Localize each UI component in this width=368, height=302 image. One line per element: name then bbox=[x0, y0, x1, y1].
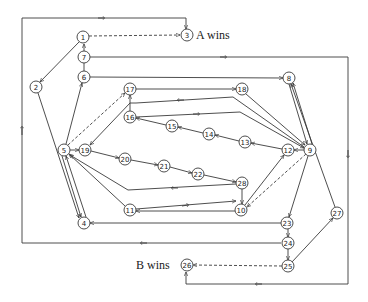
edge-28-5 bbox=[70, 155, 236, 190]
node-28: 28 bbox=[236, 177, 248, 189]
edge-8-9 bbox=[289, 84, 307, 144]
node-18: 18 bbox=[236, 83, 248, 95]
edge-9-23 bbox=[289, 156, 308, 217]
node-label: 25 bbox=[284, 263, 293, 271]
edge-5-17 bbox=[68, 93, 125, 145]
node-23: 23 bbox=[281, 217, 293, 229]
node-16: 16 bbox=[124, 111, 136, 123]
node-17: 17 bbox=[124, 83, 136, 95]
node-24: 24 bbox=[282, 237, 294, 249]
node-label: 4 bbox=[82, 220, 87, 228]
edge-12-13 bbox=[251, 143, 282, 149]
edge-25-26 bbox=[193, 265, 282, 266]
edge-17-19 bbox=[90, 103, 130, 145]
a-wins-label: A wins bbox=[196, 28, 230, 42]
edge-16-9 bbox=[136, 112, 304, 148]
node-27: 27 bbox=[331, 207, 343, 219]
node-5: 5 bbox=[58, 144, 70, 156]
node-label: 23 bbox=[283, 220, 292, 228]
nodes: 1234567891011121314151617181920212223242… bbox=[30, 29, 343, 272]
node-26: 26 bbox=[181, 259, 193, 271]
node-label: 16 bbox=[126, 114, 135, 122]
node-label: 18 bbox=[238, 86, 247, 94]
node-10: 10 bbox=[235, 204, 247, 216]
edge-25-27 bbox=[292, 218, 333, 262]
node-2: 2 bbox=[30, 81, 42, 93]
edge-21-22 bbox=[170, 167, 192, 173]
node-25: 25 bbox=[282, 260, 294, 272]
edges bbox=[22, 18, 348, 284]
node-13: 13 bbox=[239, 136, 251, 148]
node-label: 7 bbox=[82, 54, 86, 62]
node-22: 22 bbox=[192, 168, 204, 180]
node-7: 7 bbox=[78, 51, 90, 63]
node-label: 19 bbox=[81, 147, 90, 155]
edge-18-9 bbox=[246, 94, 305, 145]
node-15: 15 bbox=[166, 120, 178, 132]
node-label: 14 bbox=[205, 131, 214, 139]
node-6: 6 bbox=[78, 71, 90, 83]
node-12: 12 bbox=[282, 144, 294, 156]
node-9: 9 bbox=[304, 144, 316, 156]
edge-10-12 bbox=[245, 155, 284, 205]
node-label: 10 bbox=[237, 207, 246, 215]
edge-9-10 bbox=[247, 154, 306, 207]
edge-6-8 bbox=[90, 77, 283, 78]
node-label: 17 bbox=[126, 86, 135, 94]
node-19: 19 bbox=[79, 144, 91, 156]
node-1: 1 bbox=[77, 31, 89, 43]
node-label: 26 bbox=[183, 262, 192, 270]
node-4: 4 bbox=[78, 217, 90, 229]
node-8: 8 bbox=[283, 72, 295, 84]
edge-5-4 bbox=[62, 156, 81, 217]
node-3: 3 bbox=[181, 29, 193, 41]
node-label: 13 bbox=[241, 139, 250, 147]
edge-1-2 bbox=[40, 42, 79, 82]
node-label: 15 bbox=[168, 123, 177, 131]
node-label: 3 bbox=[185, 32, 189, 40]
node-11: 11 bbox=[124, 204, 136, 216]
node-label: 20 bbox=[121, 156, 130, 164]
node-label: 24 bbox=[284, 240, 293, 248]
edge-13-14 bbox=[215, 135, 239, 141]
node-label: 9 bbox=[308, 147, 312, 155]
b-wins-label: B wins bbox=[136, 258, 170, 272]
edge-15-16 bbox=[136, 118, 166, 125]
node-21: 21 bbox=[158, 160, 170, 172]
edge-19-20 bbox=[91, 151, 119, 158]
node-label: 8 bbox=[287, 75, 291, 83]
edge-1-3 bbox=[89, 35, 180, 36]
edge-14-15 bbox=[178, 127, 203, 133]
node-label: 21 bbox=[160, 163, 169, 171]
node-label: 27 bbox=[333, 210, 342, 218]
edge-11-5 bbox=[69, 154, 125, 206]
node-label: 2 bbox=[34, 84, 38, 92]
node-label: 28 bbox=[238, 180, 247, 188]
node-label: 12 bbox=[284, 147, 293, 155]
node-label: 11 bbox=[126, 207, 135, 215]
node-label: 5 bbox=[62, 147, 66, 155]
node-label: 1 bbox=[81, 34, 85, 42]
edge-22-28 bbox=[204, 175, 236, 182]
node-label: 6 bbox=[82, 74, 87, 82]
edge-20-21 bbox=[131, 160, 158, 165]
game-state-graph: 1234567891011121314151617181920212223242… bbox=[0, 0, 368, 302]
edge-2-4 bbox=[38, 93, 79, 218]
node-label: 22 bbox=[194, 171, 203, 179]
node-14: 14 bbox=[203, 128, 215, 140]
node-20: 20 bbox=[119, 153, 131, 165]
